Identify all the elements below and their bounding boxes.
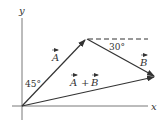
y-axis-label: y [18,5,25,16]
vector-a: A 45° [22,40,85,106]
vector-sum-label-a: A [69,77,77,88]
angle-b-label: 30° [109,42,125,52]
vector-sum-label-b: B [90,77,98,88]
angle-a-label: 45° [25,79,41,89]
x-axis: x [12,101,157,112]
vector-a-label: A [51,52,59,63]
y-axis: y [18,5,25,120]
vector-addition-diagram: x y A 45° B 30° A + B [0,0,167,128]
vector-b-label: B [139,57,147,68]
vector-b: B 30° [87,39,154,76]
x-axis-label: x [151,101,157,112]
vector-sum-label-plus: + [81,77,89,88]
vector-a-plus-b: A + B [22,75,154,106]
